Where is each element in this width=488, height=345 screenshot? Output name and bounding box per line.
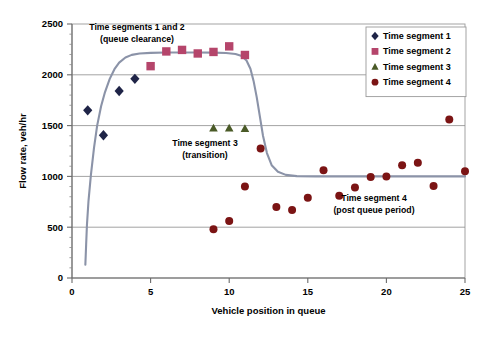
x-tick-label-0: 0 — [69, 286, 74, 297]
data-point-s4 — [209, 225, 217, 233]
ann-seg4-line2: (post queue period) — [333, 205, 414, 215]
x-axis-title: Vehicle position in queue — [211, 305, 325, 316]
y-tick-label-0: 0 — [58, 272, 63, 283]
data-point-s4 — [461, 167, 469, 175]
legend-marker-circle — [372, 79, 379, 86]
data-point-s4 — [430, 182, 438, 190]
legend-item-2[interactable]: Time segment 2 — [372, 46, 451, 56]
data-point-s2 — [162, 47, 170, 55]
y-tick-label-1000: 1000 — [42, 171, 63, 182]
legend-item-3[interactable]: Time segment 3 — [371, 62, 450, 72]
data-point-s2 — [241, 51, 249, 59]
y-tick-label-2000: 2000 — [42, 69, 63, 80]
data-point-s4 — [304, 194, 312, 202]
scatter-plot: 050010001500200025000510152025Vehicle po… — [0, 0, 488, 345]
legend-label-2: Time segment 2 — [383, 46, 451, 56]
data-point-s4 — [257, 144, 265, 152]
ann-seg3-line2: (transition) — [182, 150, 227, 160]
data-point-s4 — [445, 116, 453, 124]
x-tick-label-5: 5 — [148, 286, 154, 297]
data-point-s2 — [146, 62, 154, 70]
ann-seg12-line2: (queue clearance) — [100, 34, 174, 44]
x-tick-label-20: 20 — [381, 286, 392, 297]
y-tick-label-1500: 1500 — [42, 120, 63, 131]
data-point-s4 — [225, 217, 233, 225]
data-point-s4 — [414, 159, 422, 167]
data-point-s4 — [382, 172, 390, 180]
y-axis-title: Flow rate, veh/hr — [17, 113, 28, 189]
data-point-s4 — [398, 161, 406, 169]
data-point-s4 — [288, 206, 296, 214]
y-tick-label-500: 500 — [47, 222, 63, 233]
legend-label-4: Time segment 4 — [383, 77, 451, 87]
x-tick-label-25: 25 — [460, 286, 471, 297]
data-point-s2 — [225, 42, 233, 50]
legend-item-1[interactable]: Time segment 1 — [371, 31, 451, 41]
data-point-s4 — [320, 166, 328, 174]
legend-label-3: Time segment 3 — [383, 62, 451, 72]
legend-label-1: Time segment 1 — [383, 31, 451, 41]
data-point-s2 — [178, 46, 186, 54]
x-tick-label-15: 15 — [303, 286, 314, 297]
ann-seg3-line1: Time segment 3 — [172, 138, 238, 148]
data-point-s2 — [209, 48, 217, 56]
legend-marker-square — [372, 48, 379, 55]
ann-seg12-line1: Time segments 1 and 2 — [89, 22, 185, 32]
data-point-s4 — [241, 183, 249, 191]
y-tick-label-2500: 2500 — [42, 18, 63, 29]
data-point-s4 — [351, 184, 359, 192]
legend-item-4[interactable]: Time segment 4 — [372, 77, 451, 87]
x-tick-label-10: 10 — [224, 286, 235, 297]
chart-figure: 050010001500200025000510152025Vehicle po… — [0, 0, 488, 345]
data-point-s4 — [272, 203, 280, 211]
data-point-s2 — [194, 49, 202, 57]
data-point-s4 — [367, 173, 375, 181]
ann-seg4-line1: Time segment 4 — [341, 193, 407, 203]
